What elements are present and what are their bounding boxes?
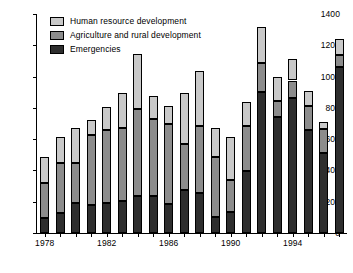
bar-1997 xyxy=(335,14,344,233)
bar-1996 xyxy=(319,14,328,233)
x-axis-tick-label: 1994 xyxy=(283,239,302,248)
y-axis-tick xyxy=(33,139,37,140)
y-axis-tick xyxy=(33,14,37,15)
bar-segment-emergencies xyxy=(304,130,313,233)
bar-segment-agriculture xyxy=(133,109,142,196)
bar-segment-agriculture xyxy=(273,101,282,117)
x-axis-tick xyxy=(153,233,154,237)
x-axis-tick xyxy=(246,233,247,237)
x-axis-tick xyxy=(231,233,232,237)
x-axis-tick xyxy=(339,233,340,237)
bar-segment-agriculture xyxy=(71,163,80,202)
bar-segment-emergencies xyxy=(319,153,328,233)
bar-segment-emergencies xyxy=(71,203,80,234)
bar-segment-emergencies xyxy=(102,203,111,234)
x-axis-tick xyxy=(262,233,263,237)
x-axis-tick xyxy=(107,233,108,237)
bar-segment-human_resource xyxy=(133,54,142,110)
bar-segment-emergencies xyxy=(149,196,158,233)
x-axis-tick xyxy=(138,233,139,237)
bar-1993 xyxy=(273,14,282,233)
y-axis-tick xyxy=(33,202,37,203)
bar-segment-human_resource xyxy=(118,93,127,128)
legend-label-emergencies: Emergencies xyxy=(70,45,121,54)
bar-segment-human_resource xyxy=(102,107,111,130)
legend-item-human-resource-development: Human resource development xyxy=(50,16,201,27)
bar-segment-emergencies xyxy=(226,212,235,233)
bar-segment-human_resource xyxy=(195,71,204,126)
bar-segment-emergencies xyxy=(288,98,297,233)
bar-segment-emergencies xyxy=(273,117,282,233)
bar-1978 xyxy=(40,14,49,233)
bar-1989 xyxy=(211,14,220,233)
bar-segment-human_resource xyxy=(180,93,189,144)
bar-segment-emergencies xyxy=(133,196,142,233)
bar-segment-agriculture xyxy=(211,157,220,217)
x-axis-tick xyxy=(60,233,61,237)
bar-segment-emergencies xyxy=(257,92,266,233)
bar-segment-emergencies xyxy=(335,67,344,233)
x-axis-tick xyxy=(45,233,46,237)
legend-label-agriculture-and-rural-development: Agriculture and rural development xyxy=(70,31,201,40)
bar-segment-agriculture xyxy=(319,129,328,153)
bar-segment-agriculture xyxy=(288,81,297,99)
bar-segment-human_resource xyxy=(149,96,158,119)
bar-segment-agriculture xyxy=(257,63,266,93)
x-axis-tick xyxy=(169,233,170,237)
x-axis-tick-label: 1982 xyxy=(97,239,116,248)
y-axis-tick xyxy=(33,233,37,234)
bar-segment-agriculture xyxy=(102,130,111,203)
bar-segment-human_resource xyxy=(40,157,49,183)
bar-segment-emergencies xyxy=(242,171,251,233)
bar-segment-emergencies xyxy=(211,217,220,233)
bar-segment-agriculture xyxy=(87,135,96,205)
chart-legend: Human resource development Agriculture a… xyxy=(50,16,201,55)
bar-segment-emergencies xyxy=(56,213,65,233)
x-axis-tick xyxy=(91,233,92,237)
y-axis-tick xyxy=(33,170,37,171)
bar-1994 xyxy=(288,14,297,233)
x-axis-tick-label: 1986 xyxy=(159,239,178,248)
bar-segment-emergencies xyxy=(195,193,204,233)
bar-segment-human_resource xyxy=(56,137,65,163)
x-axis-tick xyxy=(184,233,185,237)
bar-segment-human_resource xyxy=(242,102,251,126)
x-axis-tick xyxy=(215,233,216,237)
x-axis-tick-label: 1990 xyxy=(221,239,240,248)
bar-segment-agriculture xyxy=(56,163,65,214)
legend-swatch-icon-human-resource-development xyxy=(50,17,64,26)
bar-1992 xyxy=(257,14,266,233)
x-axis-tick xyxy=(277,233,278,237)
x-axis-tick xyxy=(293,233,294,237)
bar-segment-human_resource xyxy=(335,39,344,55)
bar-1990 xyxy=(226,14,235,233)
y-axis-tick xyxy=(33,45,37,46)
bar-segment-agriculture xyxy=(195,126,204,193)
bar-segment-agriculture xyxy=(335,55,344,68)
legend-item-agriculture-and-rural-development: Agriculture and rural development xyxy=(50,30,201,41)
bar-segment-human_resource xyxy=(226,137,235,180)
bar-segment-human_resource xyxy=(304,91,313,105)
legend-item-emergencies: Emergencies xyxy=(50,44,201,55)
bar-segment-human_resource xyxy=(71,128,80,163)
y-axis-tick xyxy=(33,77,37,78)
bar-segment-emergencies xyxy=(87,205,96,233)
bar-segment-emergencies xyxy=(40,218,49,233)
x-axis-tick xyxy=(122,233,123,237)
bar-segment-agriculture xyxy=(242,126,251,171)
bar-segment-human_resource xyxy=(211,128,220,157)
bar-segment-human_resource xyxy=(273,77,282,100)
bar-segment-emergencies xyxy=(180,190,189,233)
bar-1991 xyxy=(242,14,251,233)
bar-1995 xyxy=(304,14,313,233)
x-axis-tick-label: 1978 xyxy=(35,239,54,248)
legend-swatch-icon-emergencies xyxy=(50,45,64,54)
x-axis-tick xyxy=(200,233,201,237)
bar-segment-agriculture xyxy=(226,180,235,212)
bar-segment-agriculture xyxy=(164,124,173,204)
bar-segment-agriculture xyxy=(304,106,313,130)
bar-segment-human_resource xyxy=(164,106,173,124)
bar-segment-human_resource xyxy=(257,27,266,63)
legend-label-human-resource-development: Human resource development xyxy=(70,17,186,26)
bar-segment-agriculture xyxy=(149,119,158,196)
